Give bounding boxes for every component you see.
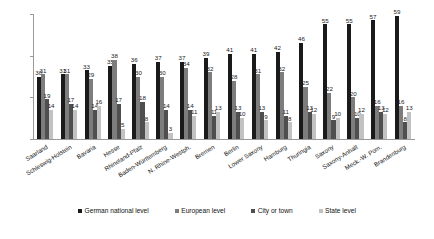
bar-group: 30311914 (33, 14, 57, 139)
bar-group: 4131139 (248, 14, 272, 139)
bar-value-label: 3 (169, 126, 172, 132)
legend-label: German national level (85, 207, 149, 214)
y-tick-mark (30, 139, 33, 140)
x-label-cell: Lower Saxony (248, 141, 272, 197)
bar-group: 3538175 (105, 14, 129, 139)
x-label-cell: Berlin (224, 141, 248, 197)
bar-value-label: 10 (334, 111, 341, 117)
bar (97, 106, 101, 139)
bar (216, 112, 220, 139)
x-axis-label: Berlin (223, 143, 240, 157)
bar-slot: 10 (336, 14, 340, 139)
bar (383, 114, 387, 139)
bar-groups: 3031191431311714332914163538175363018837… (33, 14, 415, 139)
bar-value-label: 12 (358, 107, 365, 113)
legend-item[interactable]: City or town (251, 207, 292, 214)
x-label-cell: Hamburg (272, 141, 296, 197)
bar-slot: 14 (49, 14, 53, 139)
bar (192, 116, 196, 139)
bar-group: 41281310 (224, 14, 248, 139)
bar-slot: 8 (288, 14, 292, 139)
bar (240, 118, 244, 139)
bar (407, 112, 411, 139)
bar-group: 3730143 (152, 14, 176, 139)
bar-group: 55201012 (343, 14, 367, 139)
x-label-cell: N. Rhine-Westph. (176, 141, 200, 197)
bar-value-label: 12 (382, 107, 389, 113)
legend-swatch (251, 209, 255, 213)
bar (145, 122, 149, 139)
x-label-cell: Brandenburg (391, 141, 415, 197)
bar-slot: 8 (145, 14, 149, 139)
bar-value-label: 11 (191, 109, 197, 115)
bar-slot: 13 (407, 14, 411, 139)
bar-slot: 3 (168, 14, 172, 139)
bar (49, 110, 53, 139)
bar-value-label: 9 (264, 114, 267, 120)
x-label-cell: Bavaria (81, 141, 105, 197)
x-label-cell: Thuringia (296, 141, 320, 197)
bar-value-label: 14 (72, 103, 79, 109)
bar-slot: 12 (383, 14, 387, 139)
bar-value-label: 8 (288, 116, 291, 122)
legend-swatch (78, 209, 82, 213)
bar (359, 114, 363, 139)
x-axis-labels: SaarlandSchleswig-HolsteinBavariaHesseRh… (33, 141, 415, 197)
legend-swatch (319, 209, 323, 213)
bar-value-label: 13 (406, 105, 413, 111)
bar-slot: 5 (121, 14, 125, 139)
bar (336, 118, 340, 139)
bar-slot: 9 (264, 14, 268, 139)
bar-slot: 14 (73, 14, 77, 139)
legend-item[interactable]: German national level (78, 207, 149, 214)
legend-label: State level (325, 207, 356, 214)
bar-slot: 12 (312, 14, 316, 139)
bar-group: 3630188 (129, 14, 153, 139)
x-axis-line (33, 139, 415, 140)
bar (312, 114, 316, 139)
bar-group: 33291416 (81, 14, 105, 139)
bar-group: 4232118 (272, 14, 296, 139)
legend-item[interactable]: State level (319, 207, 356, 214)
bar-value-label: 16 (95, 99, 102, 105)
legend-label: City or town (258, 207, 293, 214)
plot-area: 0204060 30311914313117143329141635381753… (33, 14, 415, 139)
bar-slot: 10 (240, 14, 244, 139)
bar-chart: 0204060 30311914313117143329141635381753… (0, 0, 434, 239)
x-label-cell: Bremen (200, 141, 224, 197)
bar (168, 133, 172, 139)
bar-group: 37341411 (176, 14, 200, 139)
bar-slot: 11 (192, 14, 196, 139)
bar-group: 39321113 (200, 14, 224, 139)
x-label-cell: Meck.-W. Pom. (367, 141, 391, 197)
bar-value-label: 5 (121, 122, 124, 128)
bar-value-label: 10 (239, 111, 246, 117)
x-label-cell: Schleswig-Holstein (57, 141, 81, 197)
bar-slot: 16 (97, 14, 101, 139)
bar-value-label: 12 (310, 107, 317, 113)
bar-group: 5522910 (320, 14, 344, 139)
bar-value-label: 13 (215, 105, 222, 111)
bar (73, 110, 77, 139)
bar (288, 122, 292, 139)
legend-swatch (175, 209, 179, 213)
bar-group: 5916813 (391, 14, 415, 139)
bar-group: 31311714 (57, 14, 81, 139)
bar-value-label: 14 (48, 103, 55, 109)
bar-group: 57161312 (367, 14, 391, 139)
bar-slot: 12 (359, 14, 363, 139)
bar (121, 129, 125, 139)
bar-group: 46251312 (296, 14, 320, 139)
bar-value-label: 8 (145, 116, 148, 122)
legend-item[interactable]: European level (175, 207, 226, 214)
bar-slot: 13 (216, 14, 220, 139)
bar (264, 120, 268, 139)
legend-label: European level (181, 207, 225, 214)
chart-legend: German national levelEuropean levelCity … (0, 207, 434, 214)
